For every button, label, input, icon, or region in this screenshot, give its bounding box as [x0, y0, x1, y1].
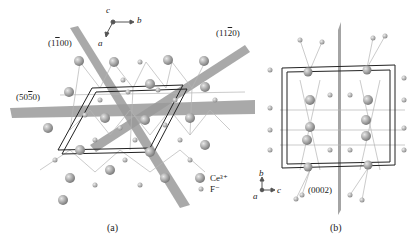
legend-ce-icon	[195, 173, 205, 183]
axis-label-b: b	[137, 15, 142, 25]
legend-f-icon	[199, 187, 204, 192]
panel-b-structure	[260, 22, 407, 215]
caption-a: (a)	[107, 222, 118, 233]
axis-label-c: c	[106, 5, 110, 15]
plane-label-50-50: (5050)	[16, 92, 40, 102]
plane-label-11-20: (1120)	[216, 28, 240, 38]
axis-label-a: a	[98, 38, 103, 48]
axis-label-b-c: c	[277, 185, 281, 195]
legend-ce-label: Ce³⁺	[210, 173, 228, 183]
caption-b: (b)	[330, 222, 342, 233]
crystal-structure-figure	[0, 0, 417, 244]
legend-f-label: F⁻	[210, 184, 220, 194]
plane-label-1-100: (1100)	[48, 38, 72, 48]
plane-0002	[338, 22, 341, 215]
axis-label-b-b: b	[259, 168, 264, 178]
axis-label-b-a: a	[253, 191, 258, 201]
plane-label-0002: (0002)	[308, 185, 332, 195]
